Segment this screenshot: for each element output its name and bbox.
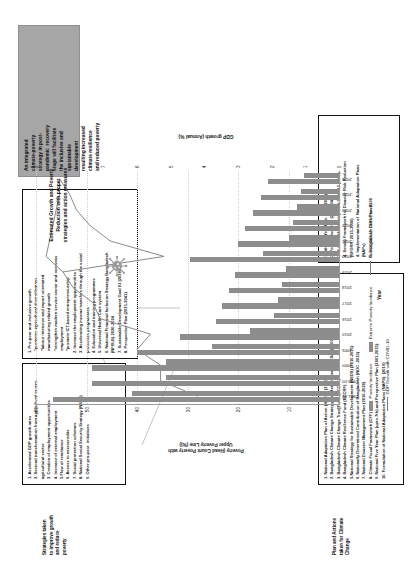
x-tick-label: 2000 bbox=[342, 363, 352, 368]
y-tick-label: 10 bbox=[286, 407, 291, 412]
bar bbox=[268, 179, 339, 184]
bar bbox=[304, 173, 339, 178]
x-tick-label: 1991-92 bbox=[342, 394, 358, 399]
bar-group bbox=[36, 357, 339, 373]
x-tick-label: 2018 bbox=[342, 285, 352, 290]
x-tick-label: 2010 bbox=[342, 332, 352, 337]
bar bbox=[166, 375, 339, 380]
y-tick-label: 30 bbox=[185, 407, 190, 412]
bar-group bbox=[36, 202, 339, 218]
bar bbox=[245, 226, 339, 231]
x-tick-label: 2021 bbox=[342, 238, 352, 243]
figure-page: An integrated climate-poverty strategy i… bbox=[0, 0, 415, 563]
legend-swatch bbox=[369, 401, 373, 411]
y-tick-label: 50 bbox=[84, 407, 89, 412]
bar-group bbox=[36, 388, 339, 404]
y2-axis-label: GDP growth (Annual %) bbox=[178, 135, 233, 140]
y2-tick-label: 2 bbox=[269, 165, 274, 168]
bar bbox=[229, 288, 339, 293]
bar bbox=[301, 189, 339, 194]
x-tick-label: 2023 bbox=[342, 207, 352, 212]
x-tick-label: 2025 bbox=[342, 176, 352, 181]
coronavirus-icon bbox=[106, 255, 128, 277]
bar bbox=[297, 204, 339, 209]
y2-tick-label: 5 bbox=[168, 165, 173, 168]
bar bbox=[53, 397, 339, 402]
legend-line-swatch bbox=[370, 261, 371, 275]
bar-group bbox=[36, 373, 339, 389]
bar-group bbox=[36, 342, 339, 358]
bar-group bbox=[36, 295, 339, 311]
bar bbox=[261, 195, 339, 200]
bar bbox=[289, 235, 340, 240]
bar bbox=[137, 350, 339, 355]
bar bbox=[263, 251, 339, 256]
y2-tick-label: 3 bbox=[236, 165, 241, 168]
y-tick-label: 0 bbox=[337, 407, 342, 410]
x-tick-label: 2019 bbox=[342, 269, 352, 274]
y2-tick-label: 1 bbox=[303, 165, 308, 168]
x-tick-label: 2024 bbox=[342, 192, 352, 197]
chart-legend: Poverty IncidenceExtreme Poverty Inciden… bbox=[368, 131, 390, 411]
y2-tick-label: 0 bbox=[337, 165, 342, 168]
x-tick-label: 2017 bbox=[342, 301, 352, 306]
bar bbox=[132, 391, 339, 396]
bar-group bbox=[36, 326, 339, 342]
bar bbox=[278, 297, 339, 302]
legend-item[interactable]: Poverty Incidence bbox=[368, 364, 373, 411]
rotated-figure-canvas: An integrated climate-poverty strategy i… bbox=[0, 0, 415, 563]
y2-tick-label: 9 bbox=[34, 165, 39, 168]
legend-item[interactable]: Extreme Poverty Incidence bbox=[368, 287, 373, 352]
bar bbox=[190, 257, 339, 262]
bar bbox=[212, 344, 339, 349]
bar bbox=[253, 210, 339, 215]
bar-group bbox=[36, 233, 339, 249]
bar bbox=[274, 313, 339, 318]
label-growth-strategies: Strategies taken to improve growth and r… bbox=[42, 491, 68, 555]
x-tick-label: 2005 bbox=[342, 347, 352, 352]
bar-group bbox=[36, 218, 339, 234]
y2-tick-label: 6 bbox=[135, 165, 140, 168]
bar bbox=[222, 303, 339, 308]
legend-label: Extreme Poverty Incidence bbox=[368, 287, 373, 339]
y-tick-label: 20 bbox=[236, 407, 241, 412]
bar-group bbox=[36, 187, 339, 203]
y2-tick-label: 4 bbox=[202, 165, 207, 168]
bar bbox=[250, 328, 339, 333]
bar bbox=[92, 365, 339, 370]
legend-label: GDP Growth with COVID-19 bbox=[385, 339, 390, 394]
annotation-estimated-growth: Estimated Growth and Poverty Reduction w… bbox=[48, 161, 70, 249]
bar bbox=[166, 359, 339, 364]
legend-item[interactable]: GDP Growth with COVID-19 bbox=[385, 339, 390, 411]
bar bbox=[238, 241, 339, 246]
y-tick-label: 40 bbox=[135, 407, 140, 412]
bar bbox=[286, 266, 339, 271]
x-tick-label: 1999-00 bbox=[342, 378, 358, 383]
plot-area: 010203040506001234567891991-921999-00200… bbox=[36, 171, 340, 405]
x-tick-label: 2020 bbox=[342, 254, 352, 259]
bar-group bbox=[36, 264, 339, 280]
legend-label: Poverty Incidence bbox=[368, 364, 373, 399]
legend-label: Pre-COVID-19 GDP Growth bbox=[368, 204, 373, 259]
y-axis-label: Poverty (Head Count Poverty with Upper P… bbox=[146, 441, 266, 453]
x-tick-label: 2016 bbox=[342, 316, 352, 321]
bar-group bbox=[36, 249, 339, 265]
bar bbox=[293, 220, 339, 225]
y-tick-label: 60 bbox=[34, 407, 39, 412]
x-tick-label: 2022 bbox=[342, 223, 352, 228]
bar-group bbox=[36, 311, 339, 327]
bar bbox=[92, 381, 339, 386]
label-climate-actions: Plan and Actions taken for Climate Chang… bbox=[332, 491, 352, 555]
legend-item[interactable]: Pre-COVID-19 GDP Growth bbox=[368, 204, 373, 275]
legend-line-swatch bbox=[387, 397, 388, 411]
y2-tick-label: 7 bbox=[101, 165, 106, 168]
bar bbox=[282, 282, 339, 287]
bar bbox=[180, 334, 339, 339]
poverty-gdp-chart: Poverty (Head Count Poverty with Upper P… bbox=[26, 145, 386, 445]
legend-swatch bbox=[369, 342, 373, 352]
bar-group bbox=[36, 171, 339, 187]
bar bbox=[216, 319, 339, 324]
bar bbox=[235, 272, 339, 277]
bar-group bbox=[36, 280, 339, 296]
